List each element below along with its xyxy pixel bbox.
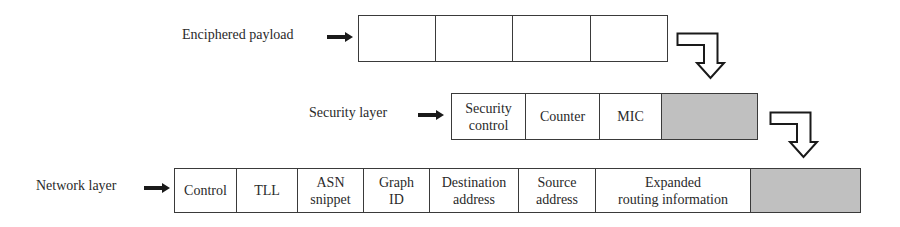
- payload-cell: [591, 16, 667, 61]
- payload-cell: [359, 16, 436, 61]
- security-control-cell: Security control: [452, 94, 526, 139]
- tll-cell: TLL: [237, 169, 298, 212]
- security-layer-frame: Security control Counter MIC: [451, 93, 758, 140]
- asn-snippet-cell: ASN snippet: [298, 169, 364, 212]
- counter-cell: Counter: [526, 94, 600, 139]
- security-layer-label: Security layer: [309, 105, 387, 121]
- control-cell: Control: [175, 169, 237, 212]
- elbow-down-arrow-icon: [770, 112, 820, 162]
- right-arrow-icon: [327, 32, 353, 42]
- payload-cell: [436, 16, 513, 61]
- right-arrow-icon: [144, 183, 170, 193]
- graph-id-cell: Graph ID: [364, 169, 430, 212]
- network-shaded-cell: [751, 169, 860, 212]
- mic-cell: MIC: [600, 94, 662, 139]
- elbow-down-arrow-icon: [677, 33, 727, 83]
- destination-address-cell: Destination address: [430, 169, 519, 212]
- source-address-cell: Source address: [519, 169, 596, 212]
- right-arrow-icon: [418, 110, 444, 120]
- security-shaded-cell: [662, 94, 757, 139]
- enciphered-payload-frame: [358, 15, 668, 62]
- network-layer-frame: Control TLL ASN snippet Graph ID Destina…: [174, 168, 861, 213]
- network-layer-label: Network layer: [36, 178, 116, 194]
- payload-cell: [513, 16, 591, 61]
- expanded-routing-information-cell: Expanded routing information: [596, 169, 751, 212]
- enciphered-payload-label: Enciphered payload: [182, 27, 294, 43]
